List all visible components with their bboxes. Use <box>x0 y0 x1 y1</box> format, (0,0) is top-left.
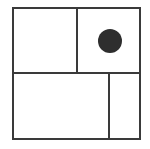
filled-dot-icon <box>98 29 122 53</box>
grid-diagram <box>0 0 150 149</box>
